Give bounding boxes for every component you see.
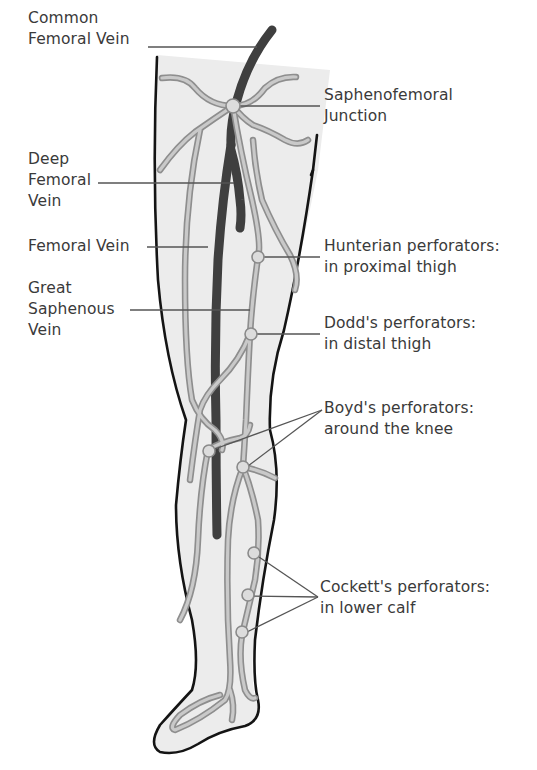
dodds-perforator-node: [245, 328, 257, 340]
label-common-femoral-vein: Common Femoral Vein: [28, 8, 130, 50]
boyds-perforator-node-2: [237, 461, 249, 473]
saphenofemoral-junction-node: [226, 99, 240, 113]
hunterian-perforator-node: [252, 251, 264, 263]
label-deep-femoral-vein: Deep Femoral Vein: [28, 149, 91, 212]
boyds-perforator-node-1: [203, 445, 215, 457]
label-boyds-perforators: Boyd's perforators: around the knee: [324, 398, 474, 440]
leg-outline-right-upper: [311, 170, 313, 175]
label-cocketts-perforators: Cockett's perforators: in lower calf: [320, 577, 490, 619]
label-dodds-perforators: Dodd's perforators: in distal thigh: [324, 313, 476, 355]
label-hunterian-perforators: Hunterian perforators: in proximal thigh: [324, 236, 500, 278]
label-femoral-vein: Femoral Vein: [28, 236, 130, 257]
label-great-saphenous-vein: Great Saphenous Vein: [28, 278, 115, 341]
cocketts-perforator-node-1: [248, 547, 260, 559]
leg-vein-diagram: [0, 0, 537, 770]
label-saphenofemoral-junction: Saphenofemoral Junction: [324, 85, 453, 127]
cocketts-perforator-node-3: [236, 626, 248, 638]
cocketts-perforator-node-2: [242, 589, 254, 601]
